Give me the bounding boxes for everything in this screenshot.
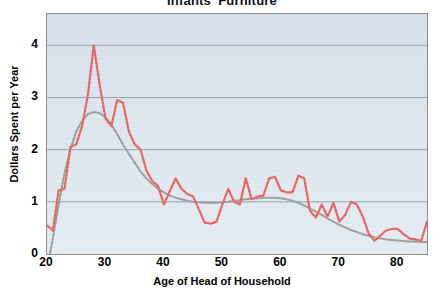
- series-line-observed: [47, 45, 427, 241]
- x-tick-label-80: 80: [377, 256, 417, 268]
- x-tick-label-50: 50: [201, 256, 241, 268]
- plot-svg: [47, 14, 427, 254]
- chart-figure: Infants' Furniture Dollars Spent per Yea…: [0, 0, 444, 301]
- x-tick-label-60: 60: [260, 256, 300, 268]
- x-tick-label-70: 70: [318, 256, 358, 268]
- y-tick-label-3: 3: [4, 90, 38, 102]
- x-tick-label-30: 30: [84, 256, 124, 268]
- series-line-trend: [47, 112, 427, 254]
- y-tick-label-2: 2: [4, 143, 38, 155]
- y-tick-label-1: 1: [4, 195, 38, 207]
- plot-area: [46, 13, 428, 255]
- x-tick-label-40: 40: [143, 256, 183, 268]
- y-tick-label-4: 4: [4, 38, 38, 50]
- y-axis-label: Dollars Spent per Year: [8, 44, 20, 204]
- x-axis-label: Age of Head of Household: [0, 275, 444, 287]
- x-tick-label-20: 20: [26, 256, 66, 268]
- gridlines: [47, 45, 427, 202]
- chart-title: Infants' Furniture: [0, 0, 444, 8]
